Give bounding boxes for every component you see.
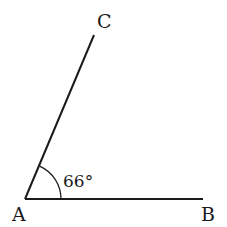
angle-arc [40, 166, 61, 199]
point-label-c: C [97, 10, 112, 32]
angle-label: 66° [63, 171, 93, 191]
angle-diagram: 66° A B C [0, 0, 227, 227]
point-label-a: A [11, 203, 26, 225]
point-label-b: B [201, 203, 215, 225]
